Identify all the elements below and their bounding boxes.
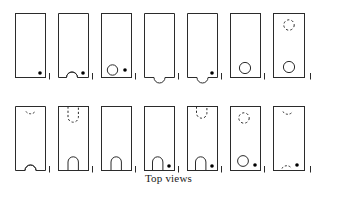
view-14-dashed-top-arc [283, 112, 293, 115]
view-6 [231, 14, 265, 80]
view-11 [145, 107, 179, 173]
view-2-outline [59, 14, 89, 78]
view-6-outline [231, 14, 261, 78]
view-8-bottom-arc [25, 165, 36, 171]
view-10-bottom-slot [111, 157, 121, 171]
view-5-dot [210, 71, 214, 75]
view-14-dashed-bottom-arc [282, 166, 292, 169]
view-12-dashed-top-arc [197, 107, 207, 119]
view-7 [274, 14, 311, 80]
view-14-dot [295, 163, 299, 167]
view-12-outline [188, 107, 218, 171]
view-4-outline [145, 14, 175, 84]
view-12-dot [210, 164, 214, 168]
view-2 [59, 14, 93, 80]
view-13 [231, 107, 265, 173]
view-13-dot [253, 163, 257, 167]
view-9-outline [59, 107, 89, 171]
view-10-outline [102, 107, 132, 171]
view-3-dot [123, 68, 127, 72]
view-11-bottom-slot [153, 157, 163, 171]
view-12-bottom-slot [195, 157, 205, 171]
view-13-outline [231, 107, 261, 171]
view-8-dashed-top-arc [26, 112, 35, 114]
view-11-outline [145, 107, 175, 171]
view-4 [145, 14, 179, 84]
view-8 [16, 107, 50, 173]
view-6-circle [239, 62, 250, 73]
view-5 [188, 14, 222, 84]
view-14-outline [274, 107, 305, 171]
view-7-circle [283, 61, 294, 72]
view-12 [188, 107, 222, 173]
view-2-dot [81, 71, 85, 75]
view-3 [102, 14, 136, 80]
view-10 [102, 107, 136, 173]
view-1-dot [38, 71, 42, 75]
view-9 [59, 107, 93, 173]
view-9-bottom-slot [68, 157, 78, 171]
view-2-bottom-arc [67, 72, 78, 77]
view-3-outline [102, 14, 132, 78]
view-14 [274, 107, 311, 173]
top-views-diagram [0, 0, 337, 197]
view-13-dashed-circle [239, 113, 249, 123]
view-7-outline [274, 14, 305, 78]
view-11-dot [167, 164, 171, 168]
top-views-figure: Top views [0, 0, 337, 197]
view-13-circle [238, 156, 249, 167]
view-3-circle [107, 65, 117, 75]
view-1 [16, 14, 50, 80]
view-7-dashed-circle [284, 20, 294, 30]
view-1-outline [16, 14, 46, 78]
view-8-outline [16, 107, 46, 171]
view-9-dashed-top-slot [68, 107, 78, 123]
figure-caption: Top views [0, 172, 337, 184]
